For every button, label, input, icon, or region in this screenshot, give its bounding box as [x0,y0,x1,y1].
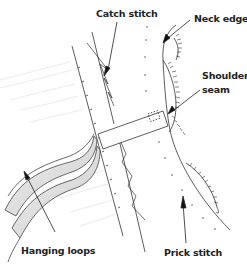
catch-stitch-label: Catch stitch [96,8,158,19]
shoulder-tab [98,111,168,149]
hanging-loops [5,134,100,262]
shoulder-seam-label-line1: Shoulder [202,70,247,81]
neck-curve [163,25,230,230]
diagram-illustration [0,0,247,266]
neck-edge-label: Neck edge [194,13,247,24]
hanging-loops-label: Hanging loops [21,245,95,256]
garment-finishing-diagram: Catch stitch Neck edge Shoulder seam Han… [0,0,247,266]
prick-stitch-label: Prick stitch [164,247,222,258]
serged-edge-ticks [168,34,218,203]
shoulder-seam-label-line2: seam [202,84,230,95]
